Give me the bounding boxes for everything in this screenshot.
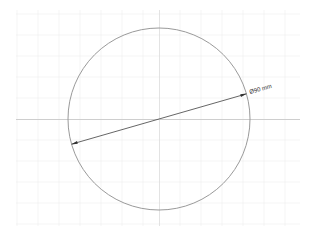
diagram-canvas: Ø90 mm (0, 0, 311, 232)
diameter-label: Ø90 mm (249, 83, 273, 95)
arrowhead-left-icon (71, 141, 78, 145)
arrowhead-right-icon (240, 94, 247, 98)
grid (16, 10, 300, 226)
